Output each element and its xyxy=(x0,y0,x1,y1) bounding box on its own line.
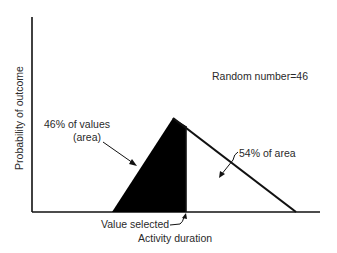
random-number-label: Random number=46 xyxy=(212,70,308,82)
value-selected-arrow xyxy=(170,217,184,225)
triangular-distribution-diagram: Probability of outcome Random number=46 … xyxy=(0,0,337,253)
shaded-area-46pct xyxy=(112,118,186,212)
left-area-label-line2: (area) xyxy=(73,131,101,143)
triangle-right-edge xyxy=(173,118,296,212)
right-area-label: 54% of area xyxy=(239,147,296,159)
left-area-arrowhead-icon xyxy=(129,159,137,166)
right-area-arrowhead-icon xyxy=(219,171,225,178)
value-selected-arrowhead-icon xyxy=(182,213,187,219)
y-axis-label: Probability of outcome xyxy=(13,66,25,170)
x-axis-label: Activity duration xyxy=(138,232,212,244)
value-selected-label: Value selected xyxy=(101,218,169,230)
left-area-label-line1: 46% of values xyxy=(44,118,110,130)
left-area-arrow xyxy=(103,142,133,163)
